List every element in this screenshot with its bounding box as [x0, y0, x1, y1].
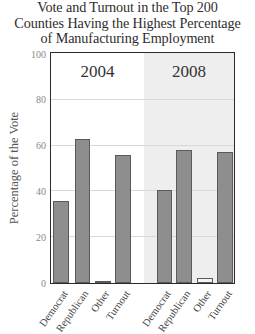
y-tick-label: 40 [36, 185, 46, 196]
panel-label-2008: 2008 [144, 62, 234, 82]
bar-2008-other [197, 278, 213, 283]
bar-2004-other [95, 281, 111, 283]
y-tick-label: 60 [36, 140, 46, 151]
y-tick-label: 80 [36, 94, 46, 105]
chart-title: Vote and Turnout in the Top 200 Counties… [0, 0, 255, 47]
bar-2004-democrat [53, 201, 69, 283]
bar-2004-turnout [115, 155, 131, 283]
chart-title-line-2: Counties Having the Highest Percentage [0, 16, 255, 32]
y-tick-label: 0 [41, 277, 46, 288]
gridline [51, 99, 234, 100]
plot-area: 2004 2008 [50, 52, 235, 284]
bar-2008-turnout [217, 152, 233, 283]
bar-2004-republican [75, 139, 90, 283]
y-tick-label: 100 [31, 48, 46, 59]
chart-title-line-3: of Manufacturing Employment [0, 31, 255, 47]
bar-2008-republican [176, 150, 192, 283]
y-tick-label: 20 [36, 231, 46, 242]
y-axis-label: Percentage of the Vote [7, 112, 22, 224]
bar-2008-democrat [157, 190, 172, 283]
panel-label-2004: 2004 [51, 62, 144, 82]
chart-title-line-1: Vote and Turnout in the Top 200 [0, 0, 255, 16]
